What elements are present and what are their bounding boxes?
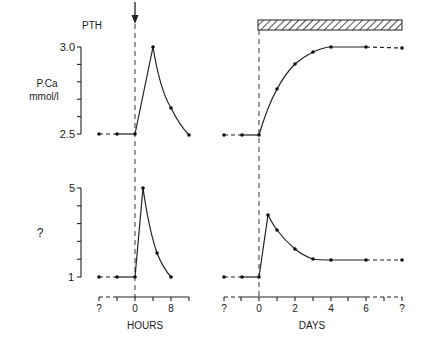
bottom-ytick-lo: 1 xyxy=(68,272,74,283)
series-top-right xyxy=(224,47,402,135)
series-bottom-right xyxy=(224,215,402,277)
top-ytick-hi: 3.0 xyxy=(60,42,75,53)
bottom-ylabel: ? xyxy=(37,227,44,239)
days-x-axis xyxy=(224,297,402,301)
days-tick-label: 4 xyxy=(328,304,334,314)
hours-tick-label: ? xyxy=(96,304,102,314)
series-top-left xyxy=(99,47,189,135)
top-ytick-lo: 2.5 xyxy=(60,129,75,140)
top-y-axis xyxy=(77,47,81,134)
pth-infusion-bar xyxy=(258,20,402,30)
top-ylabel-line1: P.Ca xyxy=(37,79,58,89)
days-tick-label: 6 xyxy=(363,304,369,314)
points-bottom-right xyxy=(222,213,404,279)
bottom-ytick-hi: 5 xyxy=(69,183,75,194)
hours-tick-label: 8 xyxy=(168,304,174,314)
days-tick-label: 0 xyxy=(256,304,262,314)
points-top-right xyxy=(222,45,404,137)
top-ylabel-line2: mmol/l xyxy=(29,92,58,102)
hours-x-axis xyxy=(99,297,189,301)
days-tick-label: ? xyxy=(221,304,227,314)
hours-tick-label: 0 xyxy=(132,304,138,314)
bottom-y-axis xyxy=(77,188,81,277)
days-tick-label: 2 xyxy=(292,304,298,314)
pth-label: PTH xyxy=(82,21,102,31)
days-tick-label: ? xyxy=(399,304,405,314)
pth-arrow-icon xyxy=(132,2,139,24)
hours-axis-title: HOURS xyxy=(127,321,163,331)
days-axis-title: DAYS xyxy=(299,321,326,331)
